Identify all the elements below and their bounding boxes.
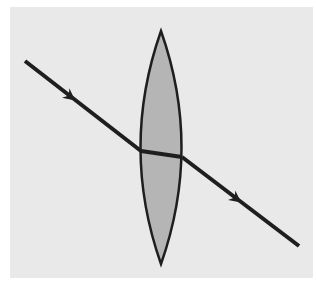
biconvex-lens	[141, 31, 182, 264]
incident-ray	[25, 61, 141, 151]
lens-ray-diagram	[0, 0, 316, 291]
